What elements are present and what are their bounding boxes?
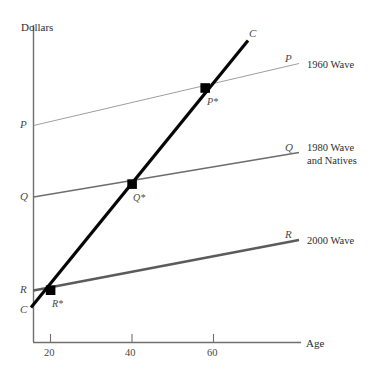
chart-container: Dollars Age 20 40 60 P Q R C C P Q R R* … bbox=[0, 0, 375, 376]
legend-label-1980-wave-line1: 1980 Wave bbox=[307, 142, 354, 154]
series-line-2000-wave bbox=[34, 240, 300, 291]
x-tick-label-40: 40 bbox=[125, 347, 136, 359]
curve-label-r: R bbox=[285, 228, 292, 240]
y-intercept-label-r: R bbox=[20, 283, 27, 295]
legend-label-2000-wave: 2000 Wave bbox=[307, 235, 354, 247]
data-point-q-star bbox=[127, 179, 137, 189]
y-axis-title: Dollars bbox=[21, 21, 53, 33]
data-point-r-star bbox=[46, 285, 56, 295]
data-point-label-r-star: R* bbox=[52, 298, 63, 309]
data-point-label-p-star: P* bbox=[207, 96, 218, 107]
x-tick-label-20: 20 bbox=[44, 347, 55, 359]
series-line-1960-wave bbox=[34, 64, 300, 126]
series-line-c bbox=[31, 41, 248, 308]
data-point-p-star bbox=[200, 83, 210, 93]
legend-label-1960-wave: 1960 Wave bbox=[307, 59, 354, 71]
y-intercept-label-p: P bbox=[20, 118, 27, 130]
y-intercept-label-q: Q bbox=[20, 190, 28, 202]
series-line-1980-wave bbox=[34, 153, 300, 198]
curve-label-p: P bbox=[285, 52, 292, 64]
data-point-label-q-star: Q* bbox=[133, 192, 145, 203]
chart-svg bbox=[0, 0, 375, 376]
curve-label-c: C bbox=[249, 27, 256, 39]
legend-label-1980-wave-line2: and Natives bbox=[307, 155, 357, 167]
x-axis-title: Age bbox=[306, 337, 324, 349]
curve-label-q: Q bbox=[285, 141, 293, 153]
y-intercept-label-c: C bbox=[20, 303, 27, 315]
x-tick-label-60: 60 bbox=[207, 347, 218, 359]
